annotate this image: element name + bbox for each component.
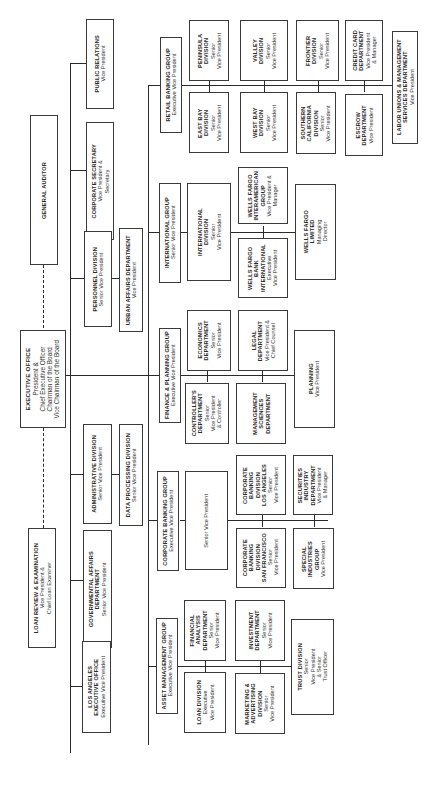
personnel-title: PERSONNEL DIVISION xyxy=(92,247,98,311)
unit-title: LOAN DIVISION xyxy=(196,680,202,725)
connector-corp-units-2 xyxy=(228,520,328,521)
tick-retail-3 xyxy=(318,80,319,92)
unit-line: Manager xyxy=(272,171,278,221)
box-economics-department: ECONOMICSDEPARTMENTSeniorVice President xyxy=(187,310,231,371)
connector-dashed-loan-review xyxy=(43,428,44,528)
loan-review-line: Chief Loan Examiner xyxy=(45,543,51,633)
box-corporate-banking-group: CORPORATE BANKING GROUP Executive Vice P… xyxy=(157,471,179,571)
unit-line: Vice President xyxy=(215,320,221,360)
unit-line: Chief Counsel xyxy=(269,320,275,361)
connector-finance xyxy=(148,375,159,376)
personnel-line: Senior Vice President xyxy=(98,247,104,311)
box-financial-analysis: FINANCIALANALYSISDEPARTMENTSeniorVice Pr… xyxy=(184,600,226,661)
box-urban-affairs: URBAN AFFAIRS DEPARTMENT Vice President xyxy=(119,228,143,332)
tick-retail-1 xyxy=(209,80,210,92)
unit-title: DEPARTMENT xyxy=(358,30,364,71)
box-controllers-department: CONTROLLER'SDEPARTMENTSeniorVice Preside… xyxy=(185,383,229,444)
executive-office-line: Vice Chairman of the Board xyxy=(54,340,61,418)
unit-line: & Manager xyxy=(370,30,376,71)
box-data-processing: DATA PROCESSING DIVISION Senior Vice Pre… xyxy=(119,424,143,526)
unit-title: INTERNATIONAL xyxy=(197,208,203,256)
unit-line: Senior xyxy=(209,320,215,360)
unit-title: DEPARTMENT xyxy=(203,320,209,360)
connector-staff-spine xyxy=(70,63,71,753)
unit-line: Vice President xyxy=(270,33,276,69)
intl-group-title: INTERNATIONAL GROUP xyxy=(164,197,170,268)
unit-title: DIVISION xyxy=(203,208,209,256)
box-southern-california-division: SOUTHERNCALIFORNIADIVISIONSeniorVice Pre… xyxy=(296,92,336,154)
unit-title: PENINSULA xyxy=(197,33,203,69)
unit-line: & Manager xyxy=(322,465,328,505)
box-corporate-svp: Senior Vice President xyxy=(185,471,228,570)
unit-title: INVESTMENT xyxy=(248,610,254,650)
connector-exec-to-groups xyxy=(66,375,150,376)
box-trust-division: TRUST DIVISIONSeniorVice President& Seni… xyxy=(291,619,334,715)
unit-title: LEGAL xyxy=(251,320,257,361)
unit-line: Vice President xyxy=(315,361,321,397)
unit-line: Vice President xyxy=(324,33,330,69)
corp-group-title: CORPORATE BANKING GROUP xyxy=(162,476,168,566)
box-wells-fargo-interamerican: WELLS FARGOINTERAMERICANGROUPVice Presid… xyxy=(238,167,288,224)
unit-title: DEPARTMENT xyxy=(254,610,260,650)
box-loan-review: LOAN REVIEW & EXAMINATION Vice President… xyxy=(28,528,56,648)
box-frontier-division: FRONTIERDIVISIONSeniorVice President xyxy=(296,20,339,81)
tick-intl xyxy=(263,226,264,238)
box-peninsula-division: PENINSULADIVISIONSeniorVice President xyxy=(189,20,229,81)
data-processing-line: Senior Vice President xyxy=(131,433,137,517)
retail-group-line: Executive Vice President xyxy=(171,48,177,121)
urban-affairs-title: URBAN AFFAIRS DEPARTMENT xyxy=(125,235,131,325)
connector-corp-secretary xyxy=(70,170,87,171)
box-retail-banking-group: RETAIL BANKING GROUP Executive Vice Pres… xyxy=(160,37,182,133)
unit-title: DEPARTMENT xyxy=(257,320,263,361)
box-corporate-secretary: CORPORATE SECRETARY Vice President & Sec… xyxy=(86,122,114,240)
corporate-secretary-title: CORPORATE SECRETARY xyxy=(91,144,97,219)
unit-line: Vice President xyxy=(309,643,315,691)
box-valley-division: VALLEYDIVISIONSeniorVice President xyxy=(240,20,288,81)
unit-line: Vice President xyxy=(367,105,373,145)
unit-line: Vice President xyxy=(325,105,331,142)
finance-group-title: FINANCE & PLANNING GROUP xyxy=(164,331,170,419)
box-international-group: INTERNATIONAL GROUP Senior Vice Presiden… xyxy=(159,183,181,283)
unit-line: Vice President xyxy=(320,541,326,577)
box-special-industries: SPECIALINDUSTRIESGROUPVice President xyxy=(293,528,334,589)
unit-line: Senior xyxy=(303,643,309,691)
unit-title: ECONOMICS xyxy=(197,320,203,360)
box-securities-industry: SECURITIESINDUSTRYDEPARTMENTVice Preside… xyxy=(293,455,333,515)
unit-line: Vice President & xyxy=(263,320,269,361)
connector-data-processing xyxy=(112,474,119,475)
box-west-bay-division: WEST BAYDIVISIONSeniorVice President xyxy=(240,92,288,153)
unit-title: DIVISION xyxy=(203,105,209,141)
finance-group-line: Executive Vice President xyxy=(170,331,176,419)
unit-line: Senior xyxy=(209,208,215,256)
box-corporate-banking-la: CORPORATEBANKINGDIVISIONLOS ANGELESSenio… xyxy=(236,455,286,515)
connector-administrative xyxy=(70,474,83,475)
connector-asset xyxy=(148,666,156,667)
box-escrow-department: ESCROWDEPARTMENTVice President xyxy=(345,94,383,156)
box-wells-fargo-bank-international: WELLS FARGOBANKINTERNATIONALExecutiveVic… xyxy=(238,238,288,298)
box-planning: PLANNINGVice President xyxy=(294,330,335,428)
unit-title: TRUST DIVISION xyxy=(297,643,303,691)
box-east-bay-division: EAST BAYDIVISIONSeniorVice President xyxy=(189,92,229,153)
unit-line: Vice President xyxy=(215,105,221,141)
unit-title: DIVISION xyxy=(203,33,209,69)
public-relations-title: PUBLIC RELATIONS xyxy=(94,35,100,92)
executive-office-line: Chief Executive Officer xyxy=(39,340,46,418)
unit-title: SERVICES DEPARTMENT xyxy=(402,39,408,135)
retail-group-title: RETAIL BANKING GROUP xyxy=(165,48,171,121)
unit-title: CREDIT CARD xyxy=(352,30,358,71)
connector-groups-spine xyxy=(148,85,149,745)
tick-asset-2 xyxy=(260,661,261,673)
box-personnel-division: PERSONNEL DIVISION Senior Vice President xyxy=(84,231,112,327)
unit-line: Senior Vice President xyxy=(203,494,209,548)
loan-review-title: LOAN REVIEW & EXAMINATION xyxy=(33,543,39,633)
tick-corp-2 xyxy=(314,515,315,527)
asset-group-title: ASSET MANAGEMENT GROUP xyxy=(161,622,167,709)
tick-retail-2 xyxy=(264,80,265,92)
corporate-secretary-line: Vice President & xyxy=(97,144,103,219)
box-legal-department: LEGALDEPARTMENTVice President &Chief Cou… xyxy=(238,310,288,371)
unit-title: DEPARTMENT xyxy=(264,392,270,435)
governmental-affairs-line: Senior Vice President xyxy=(101,551,107,627)
connector-intl xyxy=(148,232,159,233)
unit-line: Senior xyxy=(264,105,270,141)
intl-group-line: Senior Vice President xyxy=(170,197,176,268)
